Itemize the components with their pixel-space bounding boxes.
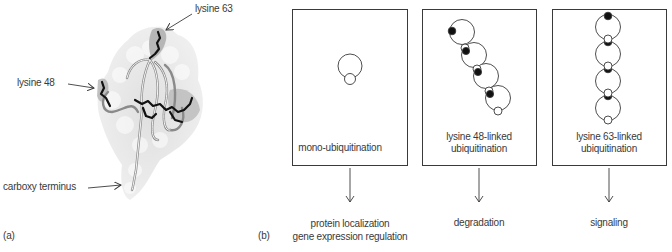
carboxy-pointer — [88, 185, 121, 188]
k63-outcome-label: signaling — [590, 217, 628, 229]
k63-chain-icon — [596, 12, 621, 124]
diagram-canvas — [0, 0, 672, 252]
carboxy-terminus-label: carboxy terminus — [3, 181, 76, 192]
lysine63-pointer — [166, 14, 192, 30]
k48-chain-icon — [448, 20, 510, 116]
k48-ubiquitination-label: lysine 48-linked ubiquitination — [446, 131, 512, 155]
k63-ubiquitination-label: lysine 63-linked ubiquitination — [576, 131, 642, 155]
k48-outcome-label: degradation — [454, 217, 505, 229]
ubiquitin-structure-image — [97, 27, 203, 200]
panel-a-caption: (a) — [3, 230, 15, 241]
lysine48-label: lysine 48 — [17, 77, 55, 88]
mono-ubiquitin-icon — [338, 54, 362, 85]
lysine48-pointer — [68, 84, 94, 88]
lysine63-label: lysine 63 — [195, 3, 233, 14]
mono-ubiquitination-label: mono-ubiquitination — [298, 142, 381, 154]
panel-b-caption: (b) — [258, 230, 270, 241]
mono-outcome-label: protein localization gene expression reg… — [293, 217, 408, 243]
